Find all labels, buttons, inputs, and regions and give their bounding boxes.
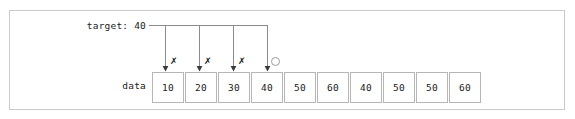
array-cell: 50	[383, 72, 415, 103]
diagram-canvas: target: 40 data ✗ ✗ ✗ 10 20 30 40 50 60 …	[0, 0, 575, 119]
match-circle-icon-4	[271, 57, 280, 66]
array-cell: 40	[251, 72, 283, 103]
target-label: target: 40	[0, 20, 146, 31]
arrowhead-cell-3	[231, 66, 237, 72]
array-cell: 20	[185, 72, 217, 103]
array-cells: 10 20 30 40 50 60 40 50 50 60	[152, 72, 481, 103]
mismatch-x-icon-2: ✗	[204, 57, 212, 66]
array-cell: 60	[449, 72, 481, 103]
array-cell: 50	[284, 72, 316, 103]
array-cell: 30	[218, 72, 250, 103]
mismatch-x-icon-1: ✗	[170, 57, 178, 66]
arrowhead-cell-1	[163, 66, 169, 72]
mismatch-x-icon-3: ✗	[238, 57, 246, 66]
array-cell: 40	[350, 72, 382, 103]
arrowhead-cell-2	[197, 66, 203, 72]
array-cell: 60	[317, 72, 349, 103]
arrowhead-cell-4	[265, 66, 271, 72]
data-label: data	[96, 80, 146, 91]
array-cell: 10	[152, 72, 184, 103]
array-cell: 50	[416, 72, 448, 103]
